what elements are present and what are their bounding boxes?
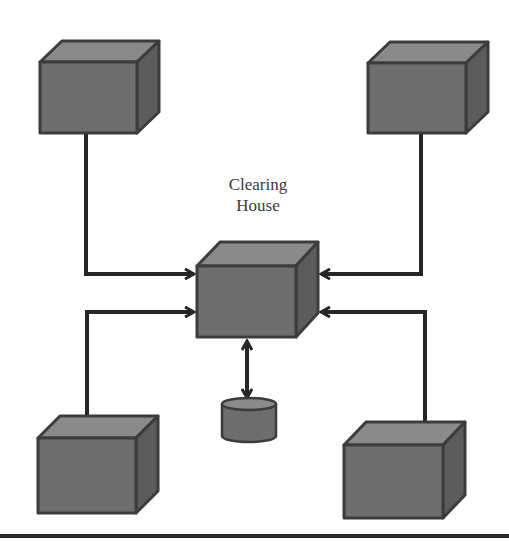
node-top-left-cube	[40, 41, 159, 133]
bottom-rule	[0, 534, 509, 538]
node-clearing-house-cube	[197, 242, 318, 337]
clearing-house-label-line2: House	[198, 195, 318, 216]
node-bottom-left-cube	[38, 416, 158, 513]
edge-bottom-left-to-clearing-house	[87, 312, 194, 417]
clearing-house-label: Clearing House	[198, 174, 318, 216]
clearing-house-diagram	[0, 0, 509, 542]
edge-bottom-right-to-clearing-house	[321, 312, 425, 422]
edge-top-left-to-clearing-house	[86, 132, 194, 274]
clearing-house-label-line1: Clearing	[198, 174, 318, 195]
edge-top-right-to-clearing-house	[321, 133, 421, 274]
node-database-cylinder	[222, 398, 276, 442]
node-top-right-cube	[368, 42, 488, 133]
node-bottom-right-cube	[344, 422, 465, 518]
